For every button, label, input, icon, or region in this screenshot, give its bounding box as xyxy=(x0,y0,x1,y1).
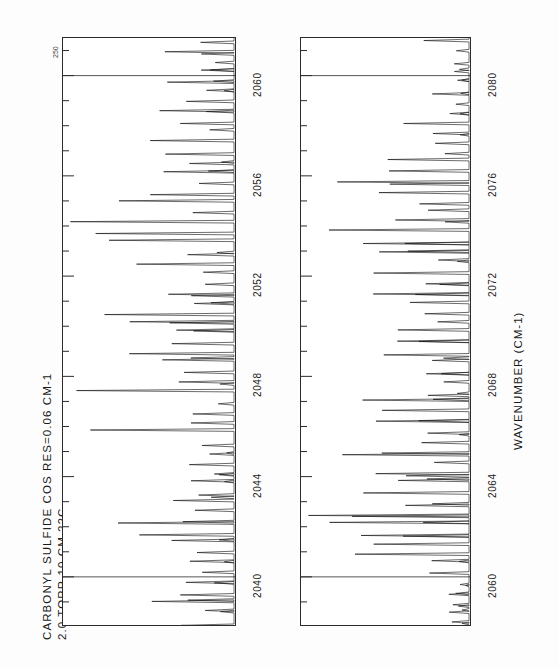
tick-label: 2060 xyxy=(252,72,263,97)
figure-number: 250 xyxy=(52,46,59,58)
tick-label: 2080 xyxy=(487,72,498,97)
tick-label: 2040 xyxy=(252,573,263,598)
tick-label: 2052 xyxy=(252,272,263,297)
spectrum-panel-upper xyxy=(62,37,236,626)
tick-label: 2076 xyxy=(487,172,498,197)
spectrum-plot-upper xyxy=(63,38,236,626)
caption-line-1: CARBONYL SULFIDE COS RES=0.06 CM-1 xyxy=(41,373,53,640)
figure-page: 250 CARBONYL SULFIDE COS RES=0.06 CM-1 2… xyxy=(0,0,559,667)
tick-label: 2064 xyxy=(487,473,498,498)
x-axis-title: WAVENUMBER (CM-1) xyxy=(512,312,524,450)
tick-label: 2068 xyxy=(487,373,498,398)
spectrum-panel-lower xyxy=(300,37,471,626)
tick-label: 2072 xyxy=(487,272,498,297)
tick-label: 2060 xyxy=(487,573,498,598)
tick-label: 2044 xyxy=(252,473,263,498)
spectrum-plot-lower xyxy=(301,38,471,626)
tick-label: 2056 xyxy=(252,172,263,197)
tick-label: 2048 xyxy=(252,373,263,398)
